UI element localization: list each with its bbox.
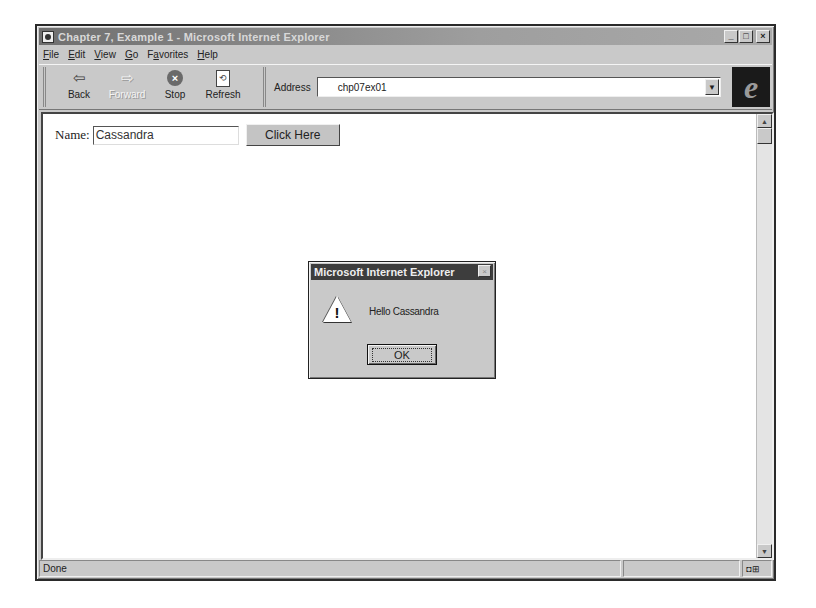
name-input[interactable]: Cassandra <box>93 126 239 145</box>
ok-button[interactable]: OK <box>367 344 437 365</box>
alert-dialog: Microsoft Internet Explorer × ! Hello Ca… <box>308 261 496 379</box>
ie-logo-icon: e <box>732 67 770 107</box>
dialog-title: Microsoft Internet Explorer <box>314 266 455 278</box>
back-button[interactable]: ⇦ Back <box>56 67 102 107</box>
window-controls: _ □ × <box>724 30 770 43</box>
close-button[interactable]: × <box>756 30 770 43</box>
scroll-up-icon[interactable]: ▲ <box>757 114 772 128</box>
menu-edit[interactable]: Edit <box>68 49 85 60</box>
forward-label: Forward <box>109 89 146 100</box>
ie-page-icon[interactable] <box>42 31 54 43</box>
dialog-message: Hello Cassandra <box>369 306 438 317</box>
menu-view[interactable]: View <box>94 49 116 60</box>
click-here-button[interactable]: Click Here <box>246 124 340 146</box>
stop-icon: × <box>167 70 183 86</box>
window-title: Chapter 7, Example 1 - Microsoft Interne… <box>58 31 330 43</box>
forward-arrow-icon: ⇨ <box>121 67 134 89</box>
menu-favorites[interactable]: Favorites <box>147 49 188 60</box>
status-progress-pane <box>623 560 740 577</box>
warning-exclamation-icon: ! <box>333 304 341 321</box>
refresh-button[interactable]: ⟲ Refresh <box>200 67 246 107</box>
name-form: Name: Cassandra Click Here <box>55 124 340 146</box>
scroll-thumb[interactable] <box>757 128 772 144</box>
title-bar[interactable]: Chapter 7, Example 1 - Microsoft Interne… <box>39 28 772 45</box>
maximize-button[interactable]: □ <box>739 30 753 43</box>
address-value: chp07ex01 <box>338 82 387 93</box>
menu-go[interactable]: Go <box>125 49 138 60</box>
back-arrow-icon: ⇦ <box>73 67 86 89</box>
minimize-button[interactable]: _ <box>724 30 738 43</box>
dialog-close-icon[interactable]: × <box>478 265 491 277</box>
dialog-title-bar[interactable]: Microsoft Internet Explorer × <box>311 264 493 280</box>
address-bar: Address chp07ex01 ▼ <box>263 67 721 107</box>
scroll-down-icon[interactable]: ▼ <box>757 544 772 558</box>
stop-label: Stop <box>165 89 186 100</box>
security-zone-icon: ◘⊞ <box>742 560 772 577</box>
standard-toolbar: ⇦ Back ⇨ Forward × Stop ⟲ Refresh <box>43 67 257 107</box>
toolbar-area: ⇦ Back ⇨ Forward × Stop ⟲ Refresh Addres… <box>39 64 772 110</box>
stop-button[interactable]: × Stop <box>152 67 198 107</box>
address-dropdown-icon[interactable]: ▼ <box>705 79 719 95</box>
forward-button[interactable]: ⇨ Forward <box>104 67 150 107</box>
menu-help[interactable]: Help <box>197 49 218 60</box>
address-label: Address <box>274 82 311 93</box>
status-text: Done <box>39 560 621 577</box>
status-bar: Done ◘⊞ <box>39 560 772 577</box>
address-input[interactable]: chp07ex01 ▼ <box>317 77 721 97</box>
vertical-scrollbar[interactable]: ▲ ▼ <box>756 114 772 558</box>
ok-label: OK <box>372 348 432 362</box>
menu-bar: File Edit View Go Favorites Help <box>41 47 218 61</box>
refresh-icon: ⟲ <box>216 70 230 87</box>
back-label: Back <box>68 89 90 100</box>
name-label: Name: <box>55 127 90 143</box>
refresh-label: Refresh <box>205 89 240 100</box>
menu-file[interactable]: File <box>43 49 59 60</box>
